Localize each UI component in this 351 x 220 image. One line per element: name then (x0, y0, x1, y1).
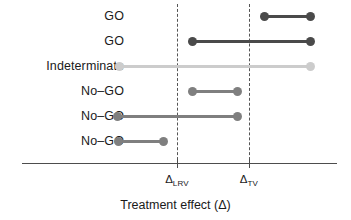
range-interval-chart: GO GO Indeterminate No–GO No (0, 0, 351, 220)
interval-endpoint-high-indeterminate (306, 62, 315, 71)
x-axis-tick-label-delta-tv: ΔTV (240, 173, 258, 188)
interval-row: No–GO (0, 129, 351, 154)
interval-endpoint-high-go-2 (306, 37, 315, 46)
row-label-go-2: GO (0, 29, 124, 54)
interval-endpoint-high-nogo-3 (159, 137, 168, 146)
interval-bar-nogo-3 (118, 140, 163, 143)
delta-symbol-lrv: Δ (165, 173, 173, 185)
row-label-go-1: GO (0, 4, 124, 29)
interval-row: GO (0, 29, 351, 54)
interval-endpoint-high-go-1 (306, 12, 315, 21)
interval-endpoint-low-indeterminate (115, 62, 124, 71)
interval-row: No–GO (0, 79, 351, 104)
interval-endpoint-high-nogo-2 (233, 112, 242, 121)
interval-bar-nogo-1 (192, 90, 237, 93)
interval-bar-indeterminate (119, 65, 310, 68)
plot-area: GO GO Indeterminate No–GO No (0, 0, 351, 165)
row-label-nogo-3: No–GO (0, 129, 124, 154)
interval-endpoint-low-go-2 (188, 37, 197, 46)
delta-subscript-tv: TV (248, 179, 259, 188)
interval-endpoint-low-nogo-3 (114, 137, 123, 146)
delta-symbol-tv: Δ (240, 173, 248, 185)
x-axis-tick-delta-lrv (177, 159, 178, 168)
x-axis-tick-delta-tv (249, 159, 250, 168)
x-axis-line (22, 163, 337, 164)
interval-bar-go-2 (192, 40, 310, 43)
interval-endpoint-low-nogo-1 (188, 87, 197, 96)
interval-bar-go-1 (264, 15, 310, 18)
interval-endpoint-low-go-1 (260, 12, 269, 21)
row-label-indeterminate: Indeterminate (0, 54, 124, 79)
interval-row: Indeterminate (0, 54, 351, 79)
interval-endpoint-low-nogo-2 (113, 112, 122, 121)
delta-subscript-lrv: LRV (173, 179, 189, 188)
interval-row: No–GO (0, 104, 351, 129)
interval-bar-nogo-2 (117, 115, 237, 118)
interval-row: GO (0, 4, 351, 29)
interval-endpoint-high-nogo-1 (233, 87, 242, 96)
row-label-nogo-1: No–GO (0, 79, 124, 104)
x-axis-title: Treatment effect (Δ) (0, 198, 351, 212)
x-axis-tick-label-delta-lrv: ΔLRV (165, 173, 189, 188)
row-label-nogo-2: No–GO (0, 104, 124, 129)
